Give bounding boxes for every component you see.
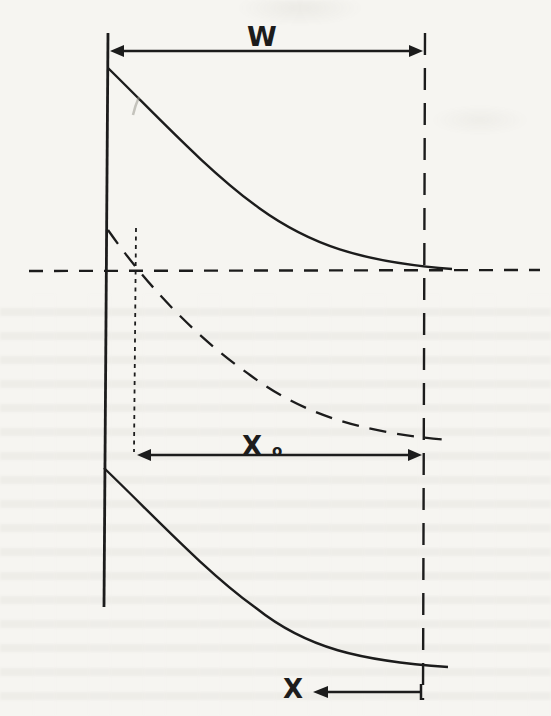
depletion-region-diagram: W X o X (0, 0, 551, 716)
lower-band-curve (104, 468, 448, 667)
x0-arrowhead-right-icon (408, 449, 422, 461)
left-boundary-line (104, 33, 108, 607)
x0-label-subscript: o (272, 442, 282, 460)
x-direction-arrow (313, 684, 421, 700)
x0-arrowhead-left-icon (137, 449, 151, 461)
x-arrowhead-left-icon (313, 686, 328, 698)
equilibrium-dashed-line (29, 270, 540, 271)
w-arrowhead-right-icon (409, 45, 423, 57)
x0-label-main: X (242, 431, 262, 461)
x-label: X (283, 674, 303, 704)
x0-label: X o (242, 431, 282, 461)
pencil-smudge-mark (133, 97, 139, 115)
crossover-dotted-line (134, 228, 136, 452)
scanned-figure-page: W X o X (0, 0, 551, 716)
depletion-edge-dashed-line (423, 33, 425, 700)
w-label: W (247, 21, 277, 52)
w-arrowhead-left-icon (110, 45, 124, 57)
upper-band-curve (108, 68, 452, 269)
